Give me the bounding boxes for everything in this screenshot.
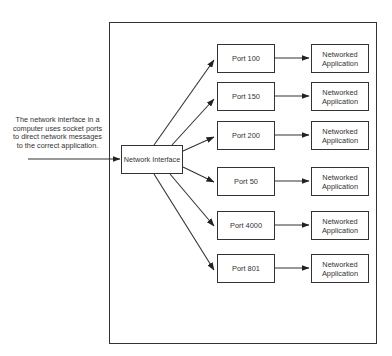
arrow-to-port-50	[183, 167, 214, 182]
networked-application-box: NetworkedApplication	[311, 211, 369, 240]
networked-application-box: NetworkedApplication	[311, 254, 369, 283]
arrow-to-port-801	[154, 174, 214, 270]
port-box-100: Port 100	[217, 44, 275, 73]
networked-application-box: NetworkedApplication	[311, 167, 369, 196]
port-box-801: Port 801	[217, 254, 275, 283]
network-interface-box: Network Interface	[121, 145, 183, 174]
port-box-150: Port 150	[217, 82, 275, 111]
socket-ports-diagram: The network interface in a computer uses…	[0, 0, 392, 356]
networked-application-box: NetworkedApplication	[311, 82, 369, 111]
networked-application-box: NetworkedApplication	[311, 121, 369, 150]
arrow-to-port-200	[183, 137, 214, 151]
port-box-200: Port 200	[217, 121, 275, 150]
port-box-50: Port 50	[217, 167, 275, 196]
caption-text: The network interface in a computer uses…	[0, 116, 115, 150]
port-box-4000: Port 4000	[217, 211, 275, 240]
networked-application-box: NetworkedApplication	[311, 44, 369, 73]
arrow-to-port-4000	[170, 174, 214, 226]
arrow-to-port-150	[172, 99, 214, 145]
